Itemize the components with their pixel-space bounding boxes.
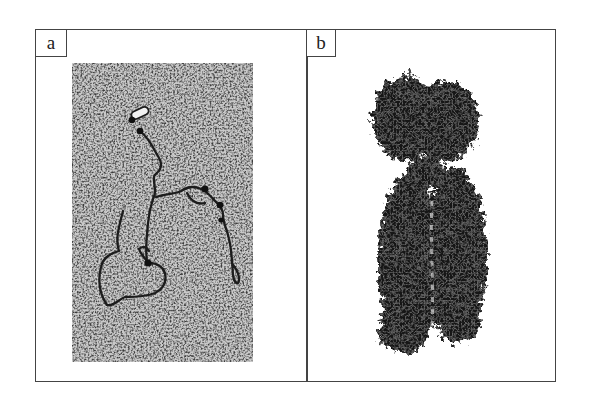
protein-dot: [144, 259, 151, 266]
chromosome-image: [307, 30, 556, 381]
panel-b: b: [307, 30, 556, 381]
panel-a: a: [36, 30, 306, 381]
protein-dot: [218, 217, 223, 222]
micrograph-grain: [72, 63, 253, 362]
protein-dot: [217, 202, 224, 209]
chromatin-texture: [360, 61, 510, 366]
dna-micrograph-image: [36, 30, 306, 381]
protein-dot: [137, 128, 144, 135]
protein-dot: [129, 117, 136, 124]
figure-frame: a: [35, 29, 556, 382]
panel-b-label: b: [307, 30, 336, 57]
panel-a-label: a: [36, 30, 67, 57]
protein-dot: [201, 185, 208, 192]
